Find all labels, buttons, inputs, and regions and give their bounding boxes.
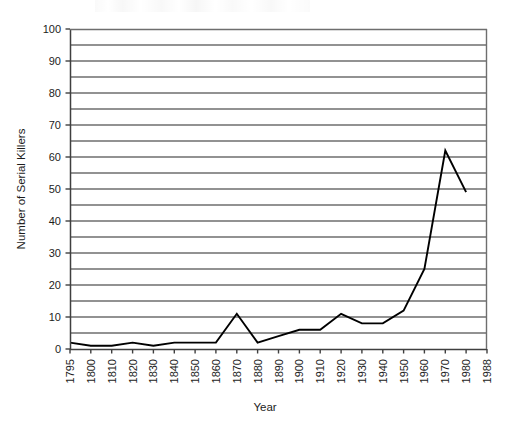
- y-axis-tick-label: 70: [49, 119, 61, 131]
- x-axis-tick-label: 1900: [293, 359, 305, 383]
- x-axis-tick-label: 1820: [127, 359, 139, 383]
- y-axis-tick-label: 40: [49, 215, 61, 227]
- x-axis-tick-label: 1970: [439, 359, 451, 383]
- y-axis-tick-label: 90: [49, 55, 61, 67]
- x-axis-tick-label: 1988: [481, 359, 493, 383]
- y-axis-tick-label: 0: [55, 343, 61, 355]
- x-axis-tick-label: 1940: [377, 359, 389, 383]
- y-axis-title: Number of Serial Killers: [15, 128, 27, 249]
- y-axis-tick-labels: 0102030405060708090100: [43, 23, 61, 355]
- chart-figure: 0102030405060708090100 17951800181018201…: [0, 0, 512, 430]
- x-axis-tick-label: 1950: [398, 359, 410, 383]
- y-axis-tick-label: 50: [49, 183, 61, 195]
- y-axis-tick-label: 80: [49, 87, 61, 99]
- x-axis-tick-label: 1930: [356, 359, 368, 383]
- x-axis-tick-label: 1890: [273, 359, 285, 383]
- x-axis-tick-labels: 1795180018101820183018401850186018701880…: [64, 359, 493, 383]
- y-axis-tick-label: 100: [43, 23, 61, 35]
- y-axis-tick-label: 60: [49, 151, 61, 163]
- x-axis-tick-label: 1810: [106, 359, 118, 383]
- x-axis-tick-label: 1920: [335, 359, 347, 383]
- y-axis-ticks: [66, 29, 71, 349]
- y-axis-tick-label: 20: [49, 279, 61, 291]
- x-axis-tick-label: 1800: [85, 359, 97, 383]
- x-axis-tick-label: 1910: [314, 359, 326, 383]
- x-axis-tick-label: 1860: [210, 359, 222, 383]
- x-axis-tick-label: 1980: [460, 359, 472, 383]
- y-axis-tick-label: 30: [49, 247, 61, 259]
- x-axis-title: Year: [253, 401, 276, 413]
- y-axis-tick-label: 10: [49, 311, 61, 323]
- x-axis-tick-label: 1960: [418, 359, 430, 383]
- x-axis-tick-label: 1870: [231, 359, 243, 383]
- x-axis-tick-label: 1850: [189, 359, 201, 383]
- line-chart: 0102030405060708090100 17951800181018201…: [0, 0, 512, 430]
- x-axis-tick-label: 1840: [168, 359, 180, 383]
- x-axis-tick-label: 1830: [147, 359, 159, 383]
- x-axis-tick-label: 1880: [252, 359, 264, 383]
- x-axis-tick-label: 1795: [64, 359, 76, 383]
